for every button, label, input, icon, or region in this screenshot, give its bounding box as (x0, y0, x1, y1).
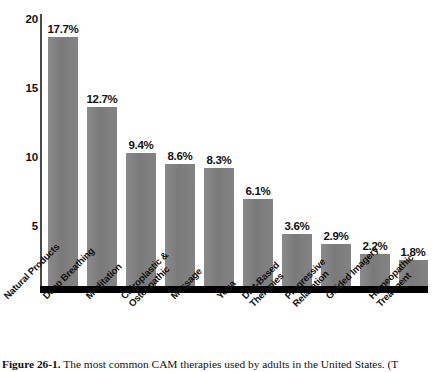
figure-caption-label: Figure 26-1. (2, 358, 61, 370)
bar-value-label: 17.7% (37, 23, 89, 35)
figure-caption: Figure 26-1. The most common CAM therapi… (2, 358, 434, 371)
figure-container: 20 15 10 5 17.7% 12.7% 9.4% 8.6% (0, 0, 434, 372)
x-axis-category-labels: Natural Products Deep Breathing Meditati… (0, 294, 434, 356)
figure-caption-text: The most common CAM therapies used by ad… (61, 358, 399, 370)
bar-value-label: 6.1% (232, 185, 284, 197)
bar-value-label: 12.7% (76, 93, 128, 105)
bar[interactable] (87, 107, 117, 286)
bar-value-label: 8.3% (193, 154, 245, 166)
